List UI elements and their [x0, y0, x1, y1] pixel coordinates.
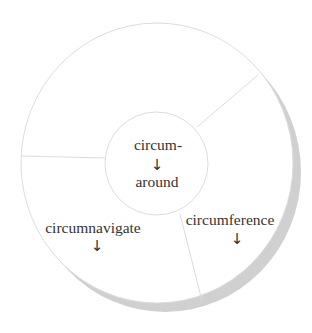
segment-word-circumnavigate: circumnavigate	[45, 219, 141, 236]
down-arrow-icon: ↓	[231, 230, 244, 248]
down-arrow-icon: ↓	[151, 156, 164, 174]
down-arrow-icon: ↓	[91, 237, 104, 255]
segment-word-circumference: circumference	[186, 211, 275, 228]
word-root-diagram: circum- ↓ around circumnavigate ↓ circum…	[0, 0, 312, 333]
root-meaning: around	[135, 173, 178, 190]
root-prefix: circum-	[134, 136, 182, 153]
